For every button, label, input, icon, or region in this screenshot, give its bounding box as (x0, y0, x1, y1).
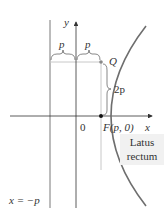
point-q (99, 60, 103, 64)
brace-left-label: p (59, 39, 65, 50)
y-axis-label: y (64, 17, 69, 28)
parabola-diagram: y p p Q 2p 0 F(p, 0) x Latus rectum x = … (0, 0, 164, 217)
brace-right-label: p (85, 39, 91, 50)
half-latus-label: 2p (114, 84, 125, 95)
brace-right (77, 50, 100, 60)
focus-label: F(p, 0) (103, 122, 134, 133)
latus-line-1: Latus (120, 135, 164, 149)
latus-rectum-label: Latus rectum (120, 134, 164, 165)
x-axis-label: x (145, 122, 150, 133)
latus-line-2: rectum (120, 149, 164, 163)
brace-left (51, 50, 75, 60)
diagram-canvas (0, 0, 164, 217)
focus-point (99, 114, 103, 118)
brace-2p (103, 64, 111, 115)
point-q-label: Q (109, 56, 117, 67)
origin-label: 0 (80, 122, 86, 133)
directrix-label: x = −p (9, 195, 40, 206)
